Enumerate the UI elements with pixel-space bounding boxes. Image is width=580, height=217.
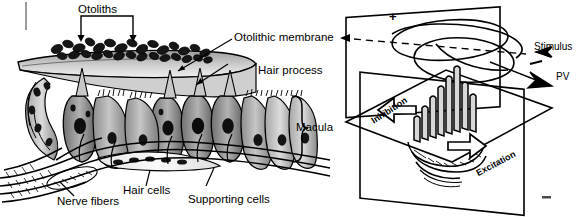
label-otolithic-membrane: Otolithic membrane xyxy=(234,32,334,44)
label-nerve-fibers: Nerve fibers xyxy=(57,196,119,208)
transitional-epithelium xyxy=(26,78,58,160)
panel-macula-cross-section: Otoliths Otolithic membrane Hair process… xyxy=(0,0,340,217)
label-otoliths: Otoliths xyxy=(78,4,117,16)
label-macula: Macula xyxy=(296,122,333,134)
scan-artifact-tick xyxy=(25,2,27,30)
label-hair-cells: Hair cells xyxy=(123,185,170,197)
panel-directional-sensitivity: + Stimulus PV Inhibition Excitation xyxy=(340,0,580,217)
anatomy-figure: Otoliths Otolithic membrane Hair process… xyxy=(0,0,580,217)
scan-artifact-mark xyxy=(542,196,551,199)
label-pv: PV xyxy=(556,72,569,82)
axis-minus-tick xyxy=(530,61,542,64)
polarization-drawing xyxy=(340,0,580,217)
label-supporting-cells: Supporting cells xyxy=(188,194,270,206)
leader-supporting-cells xyxy=(206,168,214,186)
label-hair-process: Hair process xyxy=(258,65,323,77)
label-stimulus: Stimulus xyxy=(534,42,572,52)
axis-left-arrowhead xyxy=(340,34,350,42)
label-plus-sign: + xyxy=(389,10,397,23)
otoliths-pointer xyxy=(81,16,133,36)
